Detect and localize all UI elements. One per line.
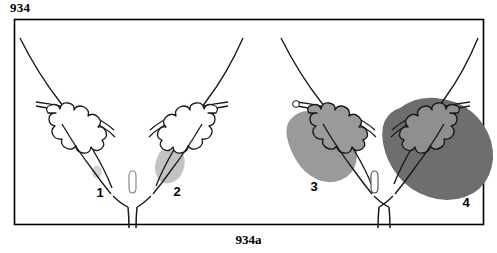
figure-number-top: 934 — [10, 1, 30, 15]
figure-caption-bottom: 934a — [0, 233, 497, 247]
left-central-os-opening — [129, 171, 136, 193]
figure-container: 934 — [0, 0, 497, 253]
panel-3-label: 3 — [310, 179, 317, 194]
panel-1-label: 1 — [96, 185, 103, 200]
figure-illustration: 1 2 — [0, 16, 497, 228]
right-central-os-opening — [371, 171, 378, 193]
panel-3-white-node — [293, 101, 300, 108]
panel-4-label: 4 — [462, 195, 470, 210]
panel-2-label: 2 — [173, 184, 180, 199]
